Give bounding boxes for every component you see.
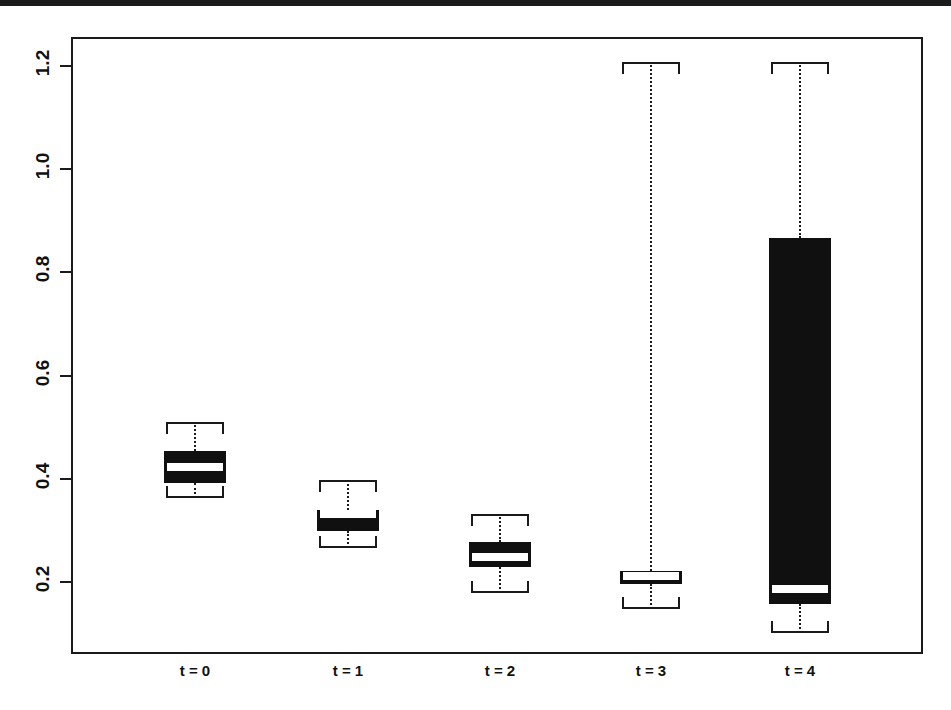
y-axis-tick xyxy=(60,65,71,67)
whisker-cap-upper xyxy=(471,514,529,526)
whisker-cap-upper xyxy=(622,62,680,74)
x-axis-category-label: t = 0 xyxy=(135,662,255,679)
x-axis-category-label: t = 2 xyxy=(440,662,560,679)
y-axis-tick-label: 0.6 xyxy=(0,362,56,384)
y-axis-tick-label: 0.8 xyxy=(0,258,56,280)
whisker-upper xyxy=(650,62,652,571)
y-axis-tick-label: 0.4 xyxy=(0,465,56,487)
y-axis-tick-label-text: 0.6 xyxy=(32,359,54,385)
whisker-cap-lower xyxy=(319,536,377,548)
y-axis-tick xyxy=(60,271,71,273)
y-axis-tick xyxy=(60,375,71,377)
box-median-line xyxy=(167,463,223,471)
y-axis-tick-label-text: 1.0 xyxy=(32,153,54,179)
box-median-line xyxy=(320,510,376,518)
whisker-cap-upper xyxy=(771,62,829,74)
x-axis-category-label: t = 3 xyxy=(591,662,711,679)
box-median-line xyxy=(772,585,828,593)
whisker-cap-lower xyxy=(622,597,680,609)
x-axis-category-label: t = 4 xyxy=(740,662,860,679)
x-axis-category-label: t = 1 xyxy=(288,662,408,679)
whisker-cap-upper xyxy=(166,422,224,434)
y-axis-tick-label: 1.0 xyxy=(0,155,56,177)
box-iqr xyxy=(769,238,831,604)
whisker-cap-lower xyxy=(471,581,529,593)
y-axis-tick-label: 1.2 xyxy=(0,52,56,74)
y-axis-tick xyxy=(60,581,71,583)
y-axis-tick-label-text: 0.8 xyxy=(32,256,54,282)
box-median-line xyxy=(623,572,679,580)
y-axis-tick-label-text: 0.4 xyxy=(32,463,54,489)
y-axis-tick-label: 0.2 xyxy=(0,568,56,590)
whisker-cap-lower xyxy=(166,486,224,498)
y-axis-tick xyxy=(60,478,71,480)
whisker-upper xyxy=(799,62,801,238)
boxplot-screenshot: 0.20.40.60.81.01.2 t = 0t = 1t = 2t = 3t… xyxy=(0,0,951,710)
y-axis-tick-label-text: 1.2 xyxy=(32,50,54,76)
scan-edge-artifact xyxy=(0,0,951,6)
y-axis-tick-label-text: 0.2 xyxy=(32,566,54,592)
box-median-line xyxy=(472,553,528,561)
whisker-cap-lower xyxy=(771,621,829,633)
whisker-cap-upper xyxy=(319,480,377,492)
y-axis-tick xyxy=(60,168,71,170)
